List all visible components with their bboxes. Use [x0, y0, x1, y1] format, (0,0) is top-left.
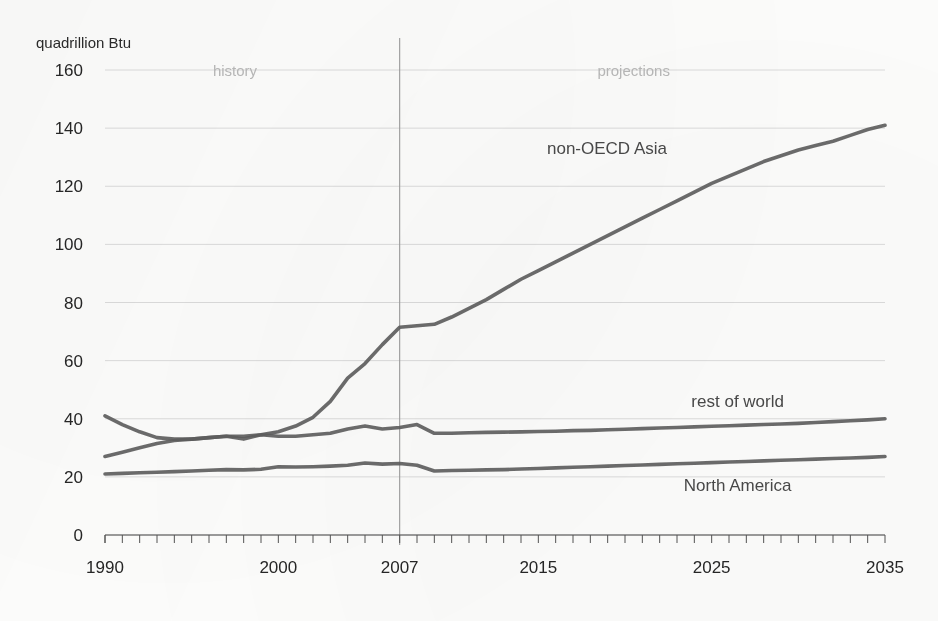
y-axis-tick-labels: 160140120100806040200: [55, 61, 83, 545]
series-label-north-america: North America: [684, 476, 792, 495]
y-tick-label-60: 60: [64, 352, 83, 371]
projections-label: projections: [597, 62, 670, 79]
series-line-north-america: [105, 457, 885, 474]
x-axis-tick-labels: 199020002007201520252035: [86, 558, 904, 577]
history-label: history: [213, 62, 258, 79]
x-axis: [105, 535, 885, 543]
x-tick-label-2025: 2025: [693, 558, 731, 577]
x-tick-label-2035: 2035: [866, 558, 904, 577]
data-series-group: [105, 125, 885, 474]
x-tick-label-1990: 1990: [86, 558, 124, 577]
y-tick-label-40: 40: [64, 410, 83, 429]
y-tick-label-140: 140: [55, 119, 83, 138]
series-label-rest-of-world: rest of world: [691, 392, 784, 411]
y-tick-label-0: 0: [74, 526, 83, 545]
series-label-non-oecd-asia: non-OECD Asia: [547, 139, 668, 158]
x-tick-label-2000: 2000: [259, 558, 297, 577]
y-tick-label-80: 80: [64, 294, 83, 313]
y-tick-label-120: 120: [55, 177, 83, 196]
x-tick-label-2007: 2007: [381, 558, 419, 577]
y-axis-title: quadrillion Btu: [36, 34, 131, 51]
y-tick-label-160: 160: [55, 61, 83, 80]
chart-figure: 160140120100806040200 199020002007201520…: [0, 0, 938, 621]
series-labels: non-OECD Asiarest of worldNorth America: [547, 139, 792, 495]
x-tick-label-2015: 2015: [519, 558, 557, 577]
chart-svg: 160140120100806040200 199020002007201520…: [0, 0, 938, 621]
y-tick-label-20: 20: [64, 468, 83, 487]
y-tick-label-100: 100: [55, 235, 83, 254]
gridlines: [105, 70, 885, 535]
series-line-rest-of-world: [105, 416, 885, 439]
